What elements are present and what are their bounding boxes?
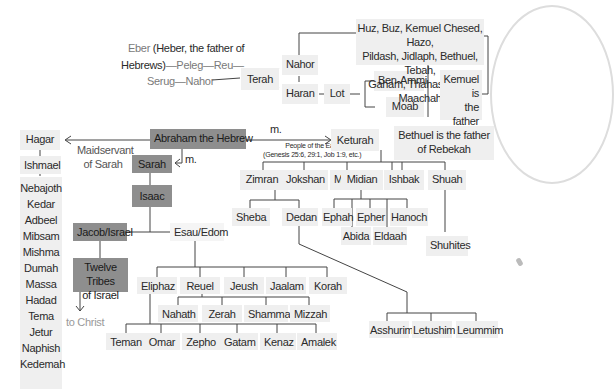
node-terah[interactable]: Terah xyxy=(241,68,279,90)
serug-nahor-label: Serug—Nahor xyxy=(147,74,214,88)
ishmael-son: Tema xyxy=(20,308,62,324)
node-omar[interactable]: Omar xyxy=(144,333,180,350)
ishmael-son: Kedemah xyxy=(20,356,62,372)
ishmael-son: Mishma xyxy=(20,244,62,260)
node-hagar[interactable]: Hagar xyxy=(20,130,60,150)
node-nahor[interactable]: Nahor xyxy=(282,55,318,75)
twelve-tribes-line-1: Twelve Tribes xyxy=(77,260,124,288)
node-jokshan[interactable]: Jokshan xyxy=(282,170,328,190)
node-twelve-tribes[interactable]: Twelve Tribes of Israel xyxy=(73,258,128,292)
node-keturah[interactable]: Keturah xyxy=(331,129,379,151)
node-leummim[interactable]: Leummim xyxy=(456,321,498,338)
node-letushim[interactable]: Letushim xyxy=(412,321,452,338)
twelve-tribes-line-2: of Israel xyxy=(77,288,124,302)
node-zepho[interactable]: Zepho xyxy=(182,333,220,350)
maidservant-line-1: Maidservant xyxy=(77,143,129,157)
node-bethuel-note: Bethuel is the father of Rebekah xyxy=(394,126,494,160)
ishmael-son: Nebajoth xyxy=(20,180,62,196)
ishmael-son: Kedar xyxy=(20,196,62,212)
node-zimran[interactable]: Zimran xyxy=(240,170,284,190)
peleg-reu-label: —Peleg—Reu— xyxy=(166,59,244,71)
ancestry-line-2: Hebrews)—Peleg—Reu— xyxy=(121,58,244,72)
node-asshurim[interactable]: Asshurim xyxy=(369,321,409,338)
node-ishmael-sons: Nebajoth Kedar Adbeel Mibsam Mishma Duma… xyxy=(20,177,62,389)
node-lot[interactable]: Lot xyxy=(324,84,350,104)
node-isaac[interactable]: Isaac xyxy=(132,185,172,207)
ishmael-son: Adbeel xyxy=(20,212,62,228)
node-abida[interactable]: Abida xyxy=(341,227,371,245)
ishmael-son: Hadad xyxy=(20,292,62,308)
node-ephah[interactable]: Ephah xyxy=(322,208,352,226)
node-jacob[interactable]: Jacob/Israel xyxy=(73,223,127,241)
ishmael-son: Jetur xyxy=(20,324,62,340)
bethuel-note-line-1: Bethuel is the father xyxy=(398,128,490,142)
hebrews-label: Hebrews) xyxy=(121,59,166,71)
node-sarah[interactable]: Sarah xyxy=(132,155,172,173)
node-hanoch[interactable]: Hanoch xyxy=(390,208,428,226)
node-zerah[interactable]: Zerah xyxy=(202,305,242,322)
node-eldaah[interactable]: Eldaah xyxy=(373,227,407,245)
node-midian[interactable]: Midian xyxy=(341,170,383,190)
node-amalek[interactable]: Amalek xyxy=(297,333,337,350)
node-eliphaz[interactable]: Eliphaz xyxy=(137,277,177,294)
node-jaalam[interactable]: Jaalam xyxy=(266,277,306,294)
people-east-line-2: (Genesis 25:6, 29:1, Job 1:9, etc.) xyxy=(263,150,361,159)
node-korah[interactable]: Korah xyxy=(309,277,347,294)
node-epher[interactable]: Epher xyxy=(356,208,386,226)
ishmael-son: Dumah xyxy=(20,260,62,276)
ishmael-son: Naphish xyxy=(20,340,62,356)
married-label-sarah: m. xyxy=(185,152,197,166)
node-reuel[interactable]: Reuel xyxy=(180,277,220,294)
node-kenaz[interactable]: Kenaz xyxy=(260,333,296,350)
nahor-sons-line-1: Huz, Buz, Kemuel Chesed, Hazo, xyxy=(356,21,484,49)
node-haran[interactable]: Haran xyxy=(282,84,318,104)
node-nahath[interactable]: Nahath xyxy=(158,305,198,322)
heber-label: (Heber, the father of xyxy=(153,42,245,54)
node-jeush[interactable]: Jeush xyxy=(224,277,264,294)
node-shuhites[interactable]: Shuhites xyxy=(426,236,468,256)
node-abraham[interactable]: Abraham the Hebrew xyxy=(150,129,246,149)
married-label-keturah: m. xyxy=(270,122,282,136)
node-kemuel-note: Kemuel is the father of Aram xyxy=(440,70,482,120)
node-teman[interactable]: Teman xyxy=(106,333,146,350)
maidservant-label: Maidservant of Sarah xyxy=(77,143,129,171)
kemuel-note-line-2: the father xyxy=(443,100,479,128)
to-christ-label: to Christ xyxy=(66,315,104,329)
node-gatam[interactable]: Gatam xyxy=(220,333,258,350)
ishmael-son: Massa xyxy=(20,276,62,292)
node-ishbak[interactable]: Ishbak xyxy=(384,170,424,190)
node-nahor-sons[interactable]: Huz, Buz, Kemuel Chesed, Hazo, Pildash, … xyxy=(356,19,484,65)
node-dedan[interactable]: Dedan xyxy=(282,208,318,226)
kemuel-note-line-1: Kemuel is xyxy=(443,72,479,100)
node-sheba[interactable]: Sheba xyxy=(232,208,270,226)
node-mizzah[interactable]: Mizzah xyxy=(290,305,330,322)
eber-label: Eber xyxy=(128,42,150,54)
ancestry-line-1: Eber (Heber, the father of xyxy=(128,41,244,55)
node-esau[interactable]: Esau/Edom xyxy=(170,223,224,241)
bethuel-note-line-2: of Rebekah xyxy=(398,142,490,156)
ishmael-son: Mibsam xyxy=(20,228,62,244)
node-ishmael[interactable]: Ishmael xyxy=(20,156,61,174)
node-shuah[interactable]: Shuah xyxy=(428,170,466,190)
maidservant-line-2: of Sarah xyxy=(77,157,129,171)
node-shammah[interactable]: Shammah xyxy=(244,305,288,322)
